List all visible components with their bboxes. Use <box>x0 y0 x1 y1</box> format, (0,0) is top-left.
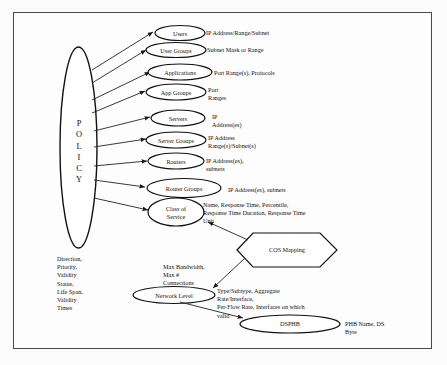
policy-letter-p: P <box>70 118 88 129</box>
attributes-routers: IP Address(es), subnets <box>206 157 244 173</box>
policy-attributes: Direction, Priority, Validity Status, Li… <box>57 255 83 312</box>
edge-policy-routers <box>94 161 147 166</box>
node-label-network-level: Network Level <box>140 292 208 300</box>
node-label-server-groups: Server Groups <box>146 137 206 145</box>
attributes-user-groups: Subnet Mask or Range <box>207 46 264 54</box>
edge-policy-applications <box>92 72 150 100</box>
attributes-dsphb: PHB Name, DS Byte <box>345 320 384 336</box>
node-label-applications: Applications <box>148 69 212 77</box>
edge-cos-mapping-network-level <box>213 258 245 288</box>
edge-policy-router-groups <box>94 180 145 187</box>
node-label-cos-mapping: COS Mapping <box>257 246 317 254</box>
edge-policy-server-groups <box>94 139 146 147</box>
attributes-users: IP Address/Range/Subnet <box>206 29 269 37</box>
policy-letter-i: I <box>70 152 88 163</box>
attributes-applications: Port Range(s), Protocols <box>214 69 275 77</box>
node-label-routers: Routers <box>148 158 204 166</box>
attributes-class-of-service: Name, Response Time, Percentile, Respons… <box>203 201 306 226</box>
attributes-servers: IP Address(es) <box>212 113 242 129</box>
node-label-users: Users <box>155 30 205 38</box>
node-label-router-groups: Router Groups <box>147 185 221 193</box>
policy-label: P O L I C Y <box>70 118 88 186</box>
edge-label-network-level-constraints: Max Bandwidth, Max # Connections <box>163 263 205 288</box>
edge-policy-app-groups <box>92 91 145 113</box>
attributes-app-groups: Port Ranges <box>208 86 226 102</box>
policy-letter-c: C <box>70 163 88 174</box>
diagram-canvas: P O L I C Y Users User Groups Applicatio… <box>0 0 447 365</box>
node-label-servers: Servers <box>151 115 205 123</box>
node-label-dsphb: DSPHB <box>262 320 318 328</box>
node-label-app-groups: App Groups <box>146 89 206 97</box>
policy-letter-o: O <box>70 129 88 140</box>
attributes-network-level: Type/Subtype, Aggregate Rate/Interface, … <box>217 287 305 320</box>
attributes-router-groups: IP Address(es), subnets <box>228 186 286 194</box>
attributes-server-groups: IP Address Range(s)/Subnet(s) <box>208 134 256 150</box>
policy-letter-y: Y <box>70 174 88 185</box>
node-label-user-groups: User Groups <box>146 47 206 55</box>
edge-policy-class-of-service <box>94 198 148 210</box>
policy-letter-l: L <box>70 141 88 152</box>
edge-policy-servers <box>94 117 150 131</box>
node-label-class-of-service: Class of Service <box>152 205 200 220</box>
